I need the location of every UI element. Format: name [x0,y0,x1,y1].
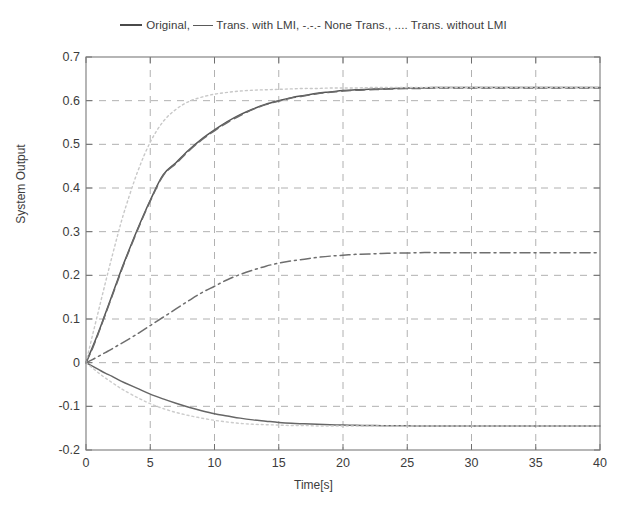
x-tick-label: 20 [323,456,363,470]
x-tick-label: 25 [387,456,427,470]
x-tick-label: 30 [452,456,492,470]
y-tick-label: 0.4 [36,181,80,195]
legend-entry-original: Original, [146,19,190,31]
y-tick-label: 0.5 [36,137,80,151]
y-tick-label: -0.2 [36,443,80,457]
legend: Original, Trans. with LMI, -.-.- None Tr… [0,19,627,31]
x-axis-tick-labels: 0510152025303540 [0,456,627,476]
plot-canvas [0,0,627,512]
legend-line-solid-icon [120,24,142,26]
y-tick-label: 0.2 [36,268,80,282]
legend-entry-trans-with-lmi: Trans. with LMI, [216,19,299,31]
y-tick-label: -0.1 [36,399,80,413]
y-axis-label: System Output [14,124,28,244]
y-tick-label: 0.1 [36,312,80,326]
y-tick-label: 0.7 [36,50,80,64]
x-tick-label: 15 [259,456,299,470]
matlab-figure-plot: Original, Trans. with LMI, -.-.- None Tr… [0,0,627,512]
x-tick-label: 0 [66,456,106,470]
x-axis-label: Time[s] [0,478,627,492]
y-tick-label: 0.6 [36,94,80,108]
x-tick-label: 5 [130,456,170,470]
legend-entry-rest: -.-.- None Trans., .... Trans. without L… [303,19,507,31]
legend-line-dashed-icon [193,25,213,26]
x-tick-label: 10 [195,456,235,470]
grid-lines [86,57,600,450]
x-tick-label: 35 [516,456,556,470]
y-tick-label: 0.3 [36,225,80,239]
y-axis-tick-labels: 0.70.60.50.40.30.20.10-0.1-0.2 [34,0,80,512]
y-tick-label: 0 [36,356,80,370]
x-tick-label: 40 [580,456,620,470]
